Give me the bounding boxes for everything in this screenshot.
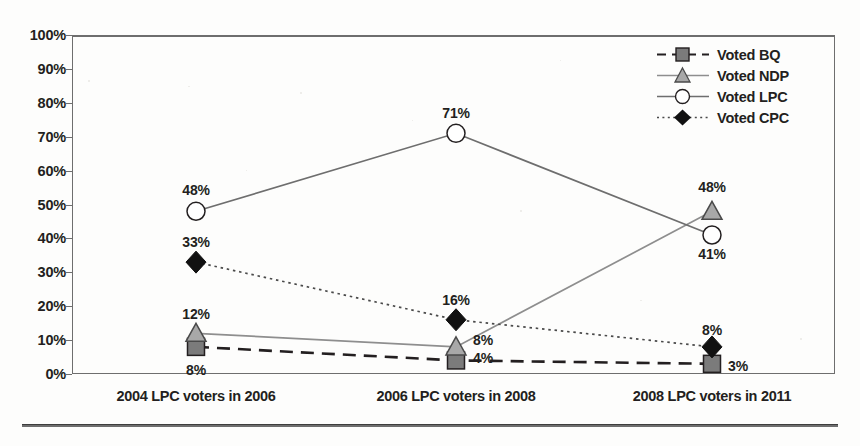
data-point-label: 48% [182,182,209,198]
legend-label-cpc: Voted CPC [711,110,789,126]
y-axis-tick-mark [66,374,72,375]
data-point-marker [702,201,722,219]
y-axis-tick-mark [66,340,72,341]
scan-speckle [640,300,642,301]
legend-label-lpc: Voted LPC [711,89,787,105]
data-point-label: 8% [186,362,206,378]
y-axis-tick-mark [66,137,72,138]
y-axis-tick-mark [66,238,72,239]
data-point-label: 16% [442,292,469,308]
legend-label-ndp: Voted NDP [711,68,789,84]
scan-speckle [246,170,247,171]
x-axis-category-label: 2006 LPC voters in 2008 [376,388,535,404]
scan-speckle [412,120,413,121]
data-point-label: 3% [728,358,748,374]
series-line [196,133,712,235]
data-point-marker [447,124,465,142]
data-point-label: 8% [702,322,722,338]
data-point-label: 41% [698,246,725,262]
legend-key-bq-icon [655,44,711,65]
data-point-label: 33% [182,234,209,250]
y-axis-tick-mark [66,35,72,36]
data-point-marker [446,309,466,331]
data-point-marker [186,251,206,273]
x-axis-category-label: 2008 LPC voters in 2011 [633,388,791,404]
scan-speckle [188,86,190,87]
data-point-label: 12% [182,306,209,322]
scan-speckle [88,80,90,82]
legend-label-bq: Voted BQ [711,47,780,63]
scan-speckle [800,338,802,340]
y-axis-tick-mark [66,306,72,307]
y-axis-tick-mark [66,272,72,273]
scan-speckle [560,60,561,61]
legend-item-voted-cpc[interactable]: Voted CPC [655,107,830,128]
legend-key-ndp-icon [655,65,711,86]
x-axis-category-label: 2004 LPC voters in 2006 [116,388,275,404]
legend-key-lpc-icon [655,86,711,107]
data-point-marker [187,202,205,220]
legend: Voted BQ Voted NDP Voted LPC [655,44,830,128]
scan-speckle [70,300,71,301]
data-point-marker [703,226,721,244]
y-axis-tick-mark [66,69,72,70]
data-point-label: 48% [698,179,725,195]
page-divider-rule [22,424,838,427]
data-point-label: 8% [473,332,493,348]
scan-speckle [520,210,522,212]
y-axis-tick-mark [66,171,72,172]
data-point-label: 4% [473,350,493,366]
y-axis-tick-mark [66,103,72,104]
data-point-label: 71% [442,105,469,121]
data-point-marker [186,323,206,341]
legend-key-cpc-icon [655,107,711,128]
legend-item-voted-lpc[interactable]: Voted LPC [655,86,830,107]
y-axis-tick-mark [66,205,72,206]
scan-speckle [300,92,302,94]
legend-item-voted-bq[interactable]: Voted BQ [655,44,830,65]
legend-item-voted-ndp[interactable]: Voted NDP [655,65,830,86]
chart-page: 100%90%80%70%60%50%40%30%20%10%0% Voted … [0,0,860,446]
